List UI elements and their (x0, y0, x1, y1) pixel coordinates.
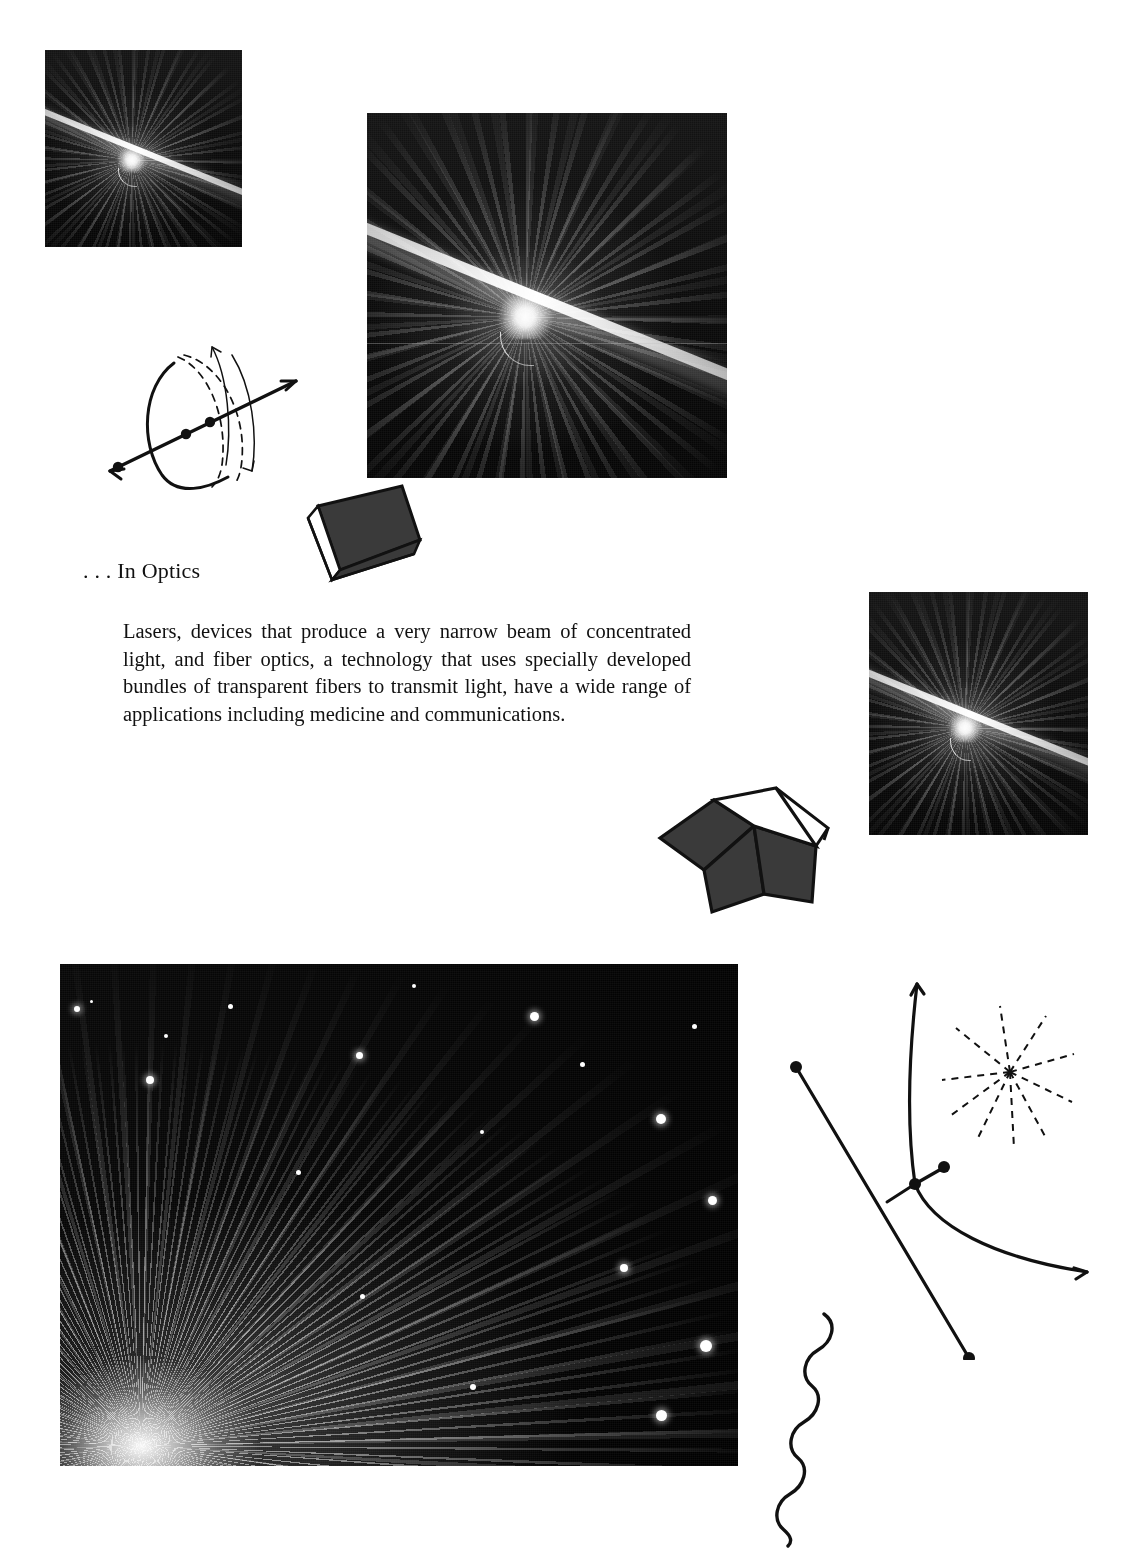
ray-intersection-dot (909, 1178, 921, 1190)
film-grain (45, 50, 242, 247)
light-wave-squiggle (752, 1300, 882, 1550)
film-grain (60, 964, 738, 1466)
axis-point (205, 417, 215, 427)
axis-point (113, 462, 123, 472)
cube-shape (652, 778, 852, 920)
normal-endpoint-dot (938, 1161, 950, 1173)
dashed-starburst (938, 998, 1078, 1154)
wave-path (777, 1314, 832, 1546)
document-page: . . . In Optics Lasers, devices that pro… (0, 0, 1133, 1568)
ray-endpoint-dot (790, 1061, 802, 1073)
starburst-center (1008, 1070, 1013, 1075)
laser-photo-right (869, 592, 1088, 835)
starburst-ray (976, 1072, 1010, 1142)
laser-photo-small (45, 50, 242, 247)
wedge-prism-shape (294, 484, 428, 594)
starburst-ray (1000, 1006, 1010, 1072)
starburst-ray (956, 1028, 1010, 1072)
film-grain (869, 592, 1088, 835)
page-title: . . . In Optics (83, 558, 200, 584)
fiber-optics-photo (60, 964, 738, 1466)
film-grain (367, 113, 727, 478)
cube-back-vertical-edge (824, 828, 828, 840)
laser-photo-large (367, 113, 727, 478)
rotation-axis-diagram (100, 325, 315, 495)
starburst-ray (1010, 1072, 1014, 1148)
starburst-ray (1010, 1072, 1046, 1138)
starburst-ray (950, 1072, 1010, 1116)
body-paragraph-block: Lasers, devices that produce a very narr… (123, 618, 691, 728)
axis-point (181, 429, 191, 439)
starburst-ray (942, 1072, 1010, 1080)
body-paragraph: Lasers, devices that produce a very narr… (123, 618, 691, 728)
